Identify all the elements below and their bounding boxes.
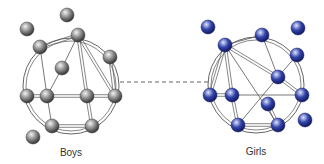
strong-tie-edge — [209, 45, 224, 95]
girls-person-node — [203, 88, 217, 102]
boys-group-label: Boys — [60, 147, 82, 158]
girls-person-node — [255, 28, 269, 42]
boys-person-node — [108, 89, 122, 103]
girls-person-node — [295, 88, 309, 102]
tie-edge — [40, 47, 47, 96]
social-network-diagram — [0, 0, 324, 164]
boys-person-node — [71, 28, 85, 42]
boys-person-node — [20, 89, 34, 103]
boys-person-node — [103, 50, 117, 64]
girls-person-node — [291, 21, 305, 35]
boys-person-node — [85, 119, 99, 133]
group-circles — [23, 37, 304, 134]
boys-inner-circle — [26, 41, 116, 131]
girls-inner-circle — [211, 40, 301, 130]
boys-person-node — [60, 8, 74, 22]
girls-person-node — [271, 70, 285, 84]
girls-group-label: Girls — [246, 146, 267, 157]
girls-person-node — [218, 38, 232, 52]
boys-person-node — [26, 130, 40, 144]
boys-person-node — [20, 22, 34, 36]
boys-person-node — [33, 40, 47, 54]
boys-person-node — [55, 61, 69, 75]
strong-tie-edge — [226, 44, 279, 76]
strong-tie-edge — [224, 46, 277, 78]
girls-person-node — [201, 20, 215, 34]
girls-person-node — [225, 88, 239, 102]
boys-person-node — [45, 119, 59, 133]
girls-person-node — [290, 48, 304, 62]
girls-person-node — [298, 113, 312, 127]
boys-person-node — [40, 89, 54, 103]
strong-tie-edge — [77, 35, 86, 96]
boys-person-node — [80, 89, 94, 103]
girls-person-node — [231, 118, 245, 132]
friendship-edges — [27, 34, 303, 128]
girls-person-node — [271, 118, 285, 132]
girls-person-node — [261, 97, 275, 111]
